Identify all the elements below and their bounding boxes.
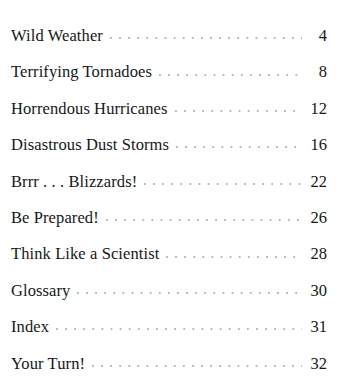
toc-entry-page-number: 16 [304,127,327,163]
toc-entry-title: Glossary [11,273,75,309]
toc-entry-page-number: 26 [304,200,327,236]
toc-entry[interactable]: Brrr . . . Blizzards! 22 [11,164,327,200]
toc-entry[interactable]: Your Turn! 32 [11,346,327,382]
toc-entry-page-number: 28 [304,236,327,272]
dot-leader [110,28,302,44]
toc-entry[interactable]: Terrifying Tornadoes 8 [11,54,327,90]
toc-entry[interactable]: Horrendous Hurricanes 12 [11,91,327,127]
toc-entry-title: Be Prepared! [11,200,104,236]
dot-leader [166,247,302,263]
toc-entry-page-number: 4 [304,18,327,54]
toc-entry-title: Terrifying Tornadoes [11,54,157,90]
toc-entry-title: Think Like a Scientist [11,236,164,272]
dot-leader [175,101,302,117]
toc-entry[interactable]: Think Like a Scientist 28 [11,236,327,272]
table-of-contents: Wild Weather 4 Terrifying Tornadoes 8 Ho… [0,0,338,388]
dot-leader [77,283,302,299]
toc-entry-page-number: 22 [304,164,327,200]
dot-leader [106,210,302,226]
dot-leader [176,137,302,153]
dot-leader [92,356,302,372]
toc-entry[interactable]: Disastrous Dust Storms 16 [11,127,327,163]
dot-leader [56,319,302,335]
toc-entry-page-number: 32 [304,346,327,382]
toc-entry[interactable]: Be Prepared! 26 [11,200,327,236]
toc-entry-title: Brrr . . . Blizzards! [11,164,142,200]
toc-entry-title: Index [11,309,54,345]
dot-leader [144,174,302,190]
toc-entry-title: Wild Weather [11,18,108,54]
toc-entry[interactable]: Glossary 30 [11,273,327,309]
toc-entry-page-number: 31 [304,309,327,345]
toc-entry-page-number: 8 [304,54,327,90]
dot-leader [159,65,302,81]
toc-entry-title: Horrendous Hurricanes [11,91,173,127]
toc-entry-title: Disastrous Dust Storms [11,127,174,163]
toc-entry-title: Your Turn! [11,346,90,382]
toc-entry[interactable]: Wild Weather 4 [11,18,327,54]
toc-entry-page-number: 12 [304,91,327,127]
toc-entry-page-number: 30 [304,273,327,309]
toc-entry[interactable]: Index 31 [11,309,327,345]
